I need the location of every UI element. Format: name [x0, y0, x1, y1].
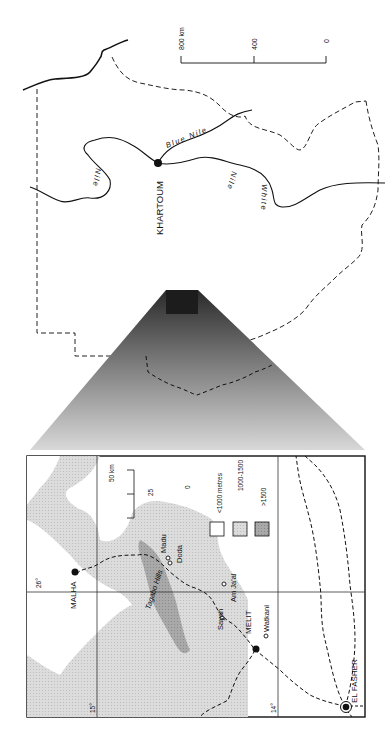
graticule-label-26: 26°: [35, 578, 42, 588]
malha-marker: [72, 569, 79, 576]
inset-scale-50km: 50 km: [108, 464, 115, 482]
madu-label: Madu: [159, 534, 168, 553]
malha-label: MALHA: [69, 581, 78, 609]
amjaal-label: Am Ja'al: [229, 573, 238, 602]
graticule-label-14: 14°: [270, 703, 277, 713]
watkani-marker: [264, 634, 268, 638]
sayah-label: Sayah: [216, 609, 225, 630]
doda-label: Doda: [175, 544, 184, 563]
white-label: White: [259, 184, 269, 211]
scale-label-800km: 800 km: [178, 27, 185, 50]
border-west: [37, 89, 146, 356]
melit-marker: [253, 646, 260, 653]
scale-label-0: 0: [323, 39, 330, 43]
madu-marker: [166, 556, 170, 560]
inset-map: 26° 15° 14° MALHA Madu Doda Tagabo Hills…: [27, 456, 365, 717]
khartoum-marker: [154, 159, 162, 167]
doda-marker: [168, 561, 172, 565]
khartoum-label: KHARTOUM: [154, 181, 165, 235]
legend-label-mid: 1000-1500: [237, 460, 244, 491]
blue-nile-label: Blue Nile: [164, 125, 209, 150]
elfasher-marker: [343, 704, 350, 711]
overview-scale-bar: 800 km 400 0: [178, 27, 330, 63]
graticule-label-15: 15°: [89, 703, 96, 713]
elfasher-label: EL FASHER: [350, 659, 359, 703]
watkani-label: Watkani: [262, 605, 271, 632]
scale-label-400: 400: [251, 38, 258, 50]
amjaal-marker: [222, 582, 226, 586]
zoom-connector: [30, 290, 365, 450]
inset-scale-25: 25: [147, 488, 154, 496]
nile-label: Nile: [91, 168, 103, 189]
study-area-box: [166, 290, 198, 314]
river-white-nile: [158, 157, 385, 207]
legend-label-high: >1500: [260, 487, 267, 506]
legend-label-low: <1000 metres: [216, 472, 223, 513]
white-nile-label: Nile: [225, 170, 239, 191]
inset-scale-0: 0: [184, 485, 191, 489]
map-figure: KHARTOUM Blue Nile Nile White Nile 800 k…: [0, 0, 385, 731]
coastline: [23, 40, 128, 90]
river-blue-nile: [158, 110, 252, 163]
border-northeast: [112, 57, 366, 150]
melit-label: MELIT: [244, 610, 253, 634]
legend-swatch-low: [210, 522, 224, 536]
legend-swatch-high: [255, 522, 269, 536]
legend-swatch-mid: [233, 522, 247, 536]
